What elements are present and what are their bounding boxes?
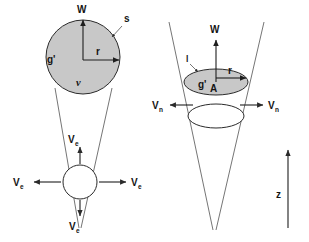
label-Ve-left: V e	[13, 177, 24, 190]
label-W-left: W	[77, 4, 87, 15]
label-Ve-right: V e	[131, 177, 142, 190]
figure-root: W s r g' v V e V e	[0, 0, 309, 242]
plume-element-bottom-disk	[188, 104, 244, 128]
label-g-prime-left: g'	[47, 54, 56, 65]
svg-text:V: V	[69, 221, 76, 232]
label-r-right: r	[228, 65, 232, 76]
surface-leader-line	[112, 26, 122, 37]
label-r-left: r	[96, 46, 100, 57]
right-panel-group: W l r g' A V n V n z	[152, 22, 288, 230]
svg-text:V: V	[131, 177, 138, 188]
label-v-volume: v	[76, 77, 81, 88]
svg-text:n: n	[275, 106, 279, 113]
label-l-thickness: l	[186, 54, 188, 64]
svg-text:V: V	[268, 100, 275, 111]
label-W-right: W	[210, 24, 220, 35]
label-s: s	[124, 13, 130, 24]
svg-text:n: n	[159, 106, 163, 113]
cone-left-edge-left-panel	[55, 88, 79, 228]
entrainment-eddy-circle	[63, 165, 97, 199]
svg-text:e: e	[76, 227, 80, 234]
svg-text:V: V	[152, 100, 159, 111]
svg-text:V: V	[68, 134, 75, 145]
figure-canvas: W s r g' v V e V e	[0, 0, 309, 242]
svg-text:e: e	[20, 183, 24, 190]
label-Vn-left: V n	[152, 100, 163, 113]
svg-text:e: e	[138, 183, 142, 190]
svg-text:V: V	[13, 177, 20, 188]
label-Ve-up: V e	[68, 134, 79, 147]
label-A-area: A	[210, 83, 217, 94]
svg-text:e: e	[75, 140, 79, 147]
cone-right-edge-left-panel	[81, 88, 112, 228]
label-g-prime-right: g'	[198, 79, 207, 90]
element-thickness-leader-line	[190, 64, 198, 72]
left-panel-group: W s r g' v V e V e	[13, 4, 142, 234]
label-Vn-right: V n	[268, 100, 279, 113]
label-z-axis: z	[276, 189, 281, 200]
